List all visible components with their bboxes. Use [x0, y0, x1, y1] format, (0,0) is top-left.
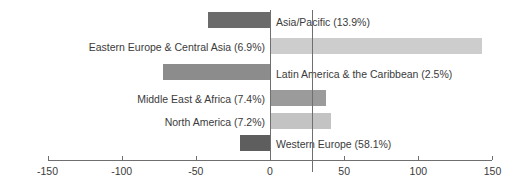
bar-eastern-europe-central-asia	[270, 38, 482, 54]
x-tick-label-4: 50	[314, 165, 374, 177]
x-axis-line	[48, 160, 493, 161]
x-tick-6	[492, 156, 493, 160]
x-tick-label-6: 150	[462, 165, 522, 177]
bar-label-eastern-europe-central-asia: Eastern Europe & Central Asia (6.9%)	[89, 41, 265, 53]
bar-label-middle-east-africa: Middle East & Africa (7.4%)	[137, 93, 265, 105]
x-tick-label-2: -50	[166, 165, 226, 177]
x-tick-5	[418, 156, 419, 160]
x-tick-3	[270, 156, 271, 160]
x-tick-4	[344, 156, 345, 160]
bar-middle-east-africa	[270, 90, 326, 106]
bar-label-asia-pacific: Asia/Pacific (13.9%)	[276, 16, 370, 28]
x-tick-label-1: -100	[92, 165, 152, 177]
reference-line	[312, 10, 313, 172]
x-tick-1	[122, 156, 123, 160]
zero-axis-line	[270, 10, 271, 160]
bar-north-america	[270, 113, 331, 129]
bar-label-western-europe: Western Europe (58.1%)	[276, 138, 391, 150]
bar-western-europe	[240, 135, 270, 151]
x-tick-0	[48, 156, 49, 160]
x-tick-label-3: 0	[240, 165, 300, 177]
bar-label-latin-america-caribbean: Latin America & the Caribbean (2.5%)	[276, 68, 452, 80]
x-tick-label-5: 100	[388, 165, 448, 177]
bar-asia-pacific	[208, 12, 270, 28]
x-tick-2	[196, 156, 197, 160]
bar-label-north-america: North America (7.2%)	[165, 116, 265, 128]
bar-latin-america-caribbean	[163, 64, 270, 80]
plot-area: Asia/Pacific (13.9%) Eastern Europe & Ce…	[0, 0, 529, 194]
bar-chart: Asia/Pacific (13.9%) Eastern Europe & Ce…	[0, 0, 529, 194]
x-tick-label-0: -150	[18, 165, 78, 177]
